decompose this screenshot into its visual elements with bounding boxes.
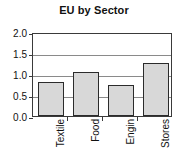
plot-area <box>32 33 172 117</box>
x-axis-tick-label: Textile <box>55 119 66 147</box>
y-axis-tick-label: 0.0 <box>13 112 27 123</box>
x-axis-tick-label: Food <box>90 119 101 142</box>
y-axis-tick-label: 1.5 <box>13 49 27 60</box>
bar <box>143 63 169 116</box>
y-axis-tick-label: 1.0 <box>13 70 27 81</box>
y-axis-tick-label: 2.0 <box>13 28 27 39</box>
chart-title: EU by Sector <box>0 4 188 16</box>
y-axis-tick-label: 0.5 <box>13 91 27 102</box>
x-axis-tick-label: Stores <box>160 119 171 148</box>
bar <box>108 85 134 116</box>
x-axis-tick-label: Engin <box>125 119 136 145</box>
bar-series <box>33 34 171 116</box>
bar <box>38 82 64 116</box>
bar-chart: EU by Sector 0.00.51.01.52.0 TextileFood… <box>0 0 188 166</box>
x-axis-tick-labels: TextileFoodEnginStores <box>32 119 172 165</box>
y-axis-tick-labels: 0.00.51.01.52.0 <box>0 33 30 117</box>
bar <box>73 72 99 116</box>
